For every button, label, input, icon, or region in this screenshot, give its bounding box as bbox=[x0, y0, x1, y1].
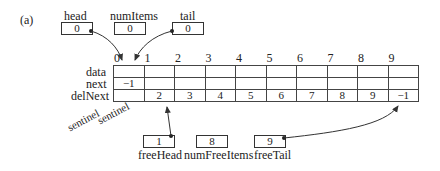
freehead-pointer-arrow bbox=[167, 107, 173, 138]
tail-pointer-arrow bbox=[135, 29, 174, 60]
pointer-arrows bbox=[0, 0, 440, 171]
freetail-pointer-arrow bbox=[282, 106, 398, 140]
head-pointer-arrow bbox=[89, 29, 122, 60]
